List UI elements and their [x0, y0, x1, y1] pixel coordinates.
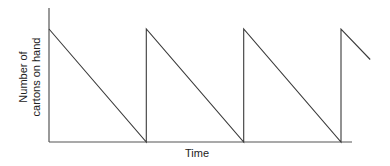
inventory-sawtooth-chart: Number of cartons on hand Time — [0, 0, 390, 166]
inventory-level-line — [49, 29, 370, 142]
y-axis-label-line-1: Number of — [17, 50, 29, 102]
x-axis-label: Time — [185, 147, 209, 159]
y-axis-label-line-2: cartons on hand — [30, 38, 42, 117]
